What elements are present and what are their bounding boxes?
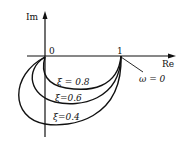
omega-zero-label: ω = 0: [139, 74, 166, 84]
im-axis-label: Im: [26, 12, 39, 22]
re-axis-label: Re: [162, 59, 174, 69]
real-axis-arrow-icon: [168, 54, 176, 59]
curve-label-zeta-0.8: ξ = 0.8: [57, 77, 90, 87]
unit-label: 1: [117, 46, 123, 56]
curve-label-zeta-0.4: ξ=0.4: [53, 112, 80, 122]
nyquist-diagram: Im Re 0 1 ω = 0 ξ = 0.8 ξ=0.6 ξ=0.4: [0, 0, 190, 141]
origin-label: 0: [49, 46, 55, 56]
imaginary-axis-arrow-icon: [43, 11, 48, 19]
omega-leader-line: [121, 57, 143, 72]
curve-label-zeta-0.6: ξ=0.6: [55, 93, 82, 103]
